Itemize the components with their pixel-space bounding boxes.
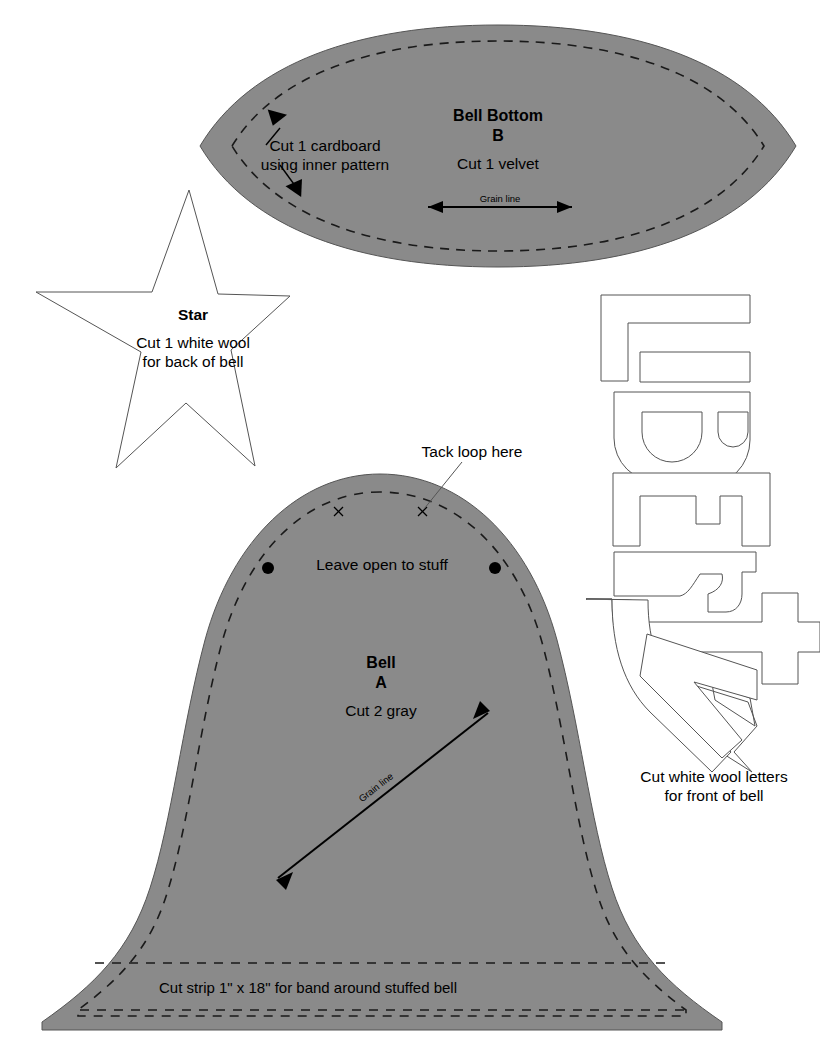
bell-open-dot-right (489, 562, 501, 574)
bell-letter-label: A (375, 674, 387, 691)
bell-bottom-cut-instruction: Cut 1 velvet (457, 155, 540, 172)
bell-bottom-letter-label: B (492, 127, 504, 144)
star-cut-instruction-line2: for back of bell (143, 353, 244, 370)
piece-liberty-letters: Cut white wool letters for front of bell (586, 295, 820, 804)
bell-bottom-grain-label: Grain line (480, 193, 521, 204)
star-outline (36, 190, 290, 468)
bell-cut-instruction: Cut 2 gray (345, 702, 417, 719)
bell-leave-open-note: Leave open to stuff (316, 556, 448, 573)
letter-E-outline (613, 473, 770, 546)
piece-star: Star Cut 1 white wool for back of bell (36, 190, 290, 468)
bell-open-dot-left (262, 562, 274, 574)
pattern-artboard: Cut 1 cardboard using inner pattern Bell… (0, 0, 820, 1051)
pattern-sheet: Cut 1 cardboard using inner pattern Bell… (0, 0, 820, 1051)
bell-bottom-title: Bell Bottom (453, 107, 543, 124)
tack-loop-note: Tack loop here (422, 443, 523, 460)
bell-title: Bell (366, 654, 395, 671)
letters-cut-instruction-line1: Cut white wool letters (640, 768, 788, 785)
piece-bell-bottom: Cut 1 cardboard using inner pattern Bell… (200, 25, 796, 267)
bell-bottom-inner-note-line2: using inner pattern (261, 156, 389, 173)
letter-B-outline (614, 392, 750, 486)
star-title: Star (178, 306, 208, 323)
bell-bottom-inner-note-line1: Cut 1 cardboard (269, 137, 380, 154)
bell-band-strip-note: Cut strip 1" x 18" for band around stuff… (159, 979, 457, 996)
star-cut-instruction-line1: Cut 1 white wool (136, 334, 250, 351)
letter-I-outline (640, 352, 750, 382)
letters-cut-instruction-line2: for front of bell (664, 787, 763, 804)
